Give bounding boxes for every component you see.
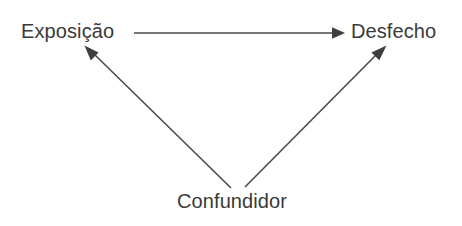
edge-line-confounder-to-outcome — [245, 54, 377, 187]
arrowhead-icon-to-exposure — [85, 46, 99, 61]
arrowhead-icon-to-outcome — [332, 27, 345, 39]
edge-confounder-to-exposure — [85, 46, 232, 189]
node-label-confounder: Confundidor — [177, 191, 287, 211]
node-label-outcome: Desfecho — [351, 21, 436, 41]
node-label-exposure: Exposição — [21, 21, 114, 41]
edge-line-confounder-to-exposure — [94, 54, 231, 188]
confounding-diagram: Exposição Desfecho Confundidor — [0, 0, 462, 226]
edge-confounder-to-outcome — [245, 46, 387, 188]
edge-exposure-to-outcome — [134, 27, 345, 39]
